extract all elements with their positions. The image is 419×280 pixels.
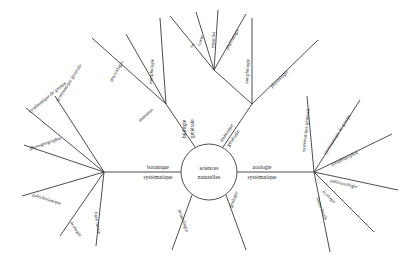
zoology-hub-label-line1: zoologie xyxy=(252,164,272,170)
diagram-canvas: sciences naturelles botanique systématiq… xyxy=(0,0,419,280)
fan-label-physiologie: physiologie xyxy=(225,28,241,51)
biology-general-label-line1: biologie xyxy=(181,119,187,138)
botany-leaf-label-3: phytogéographie xyxy=(29,135,62,151)
fan-label-os: os xyxy=(189,42,196,49)
anatomy-general-group xyxy=(252,18,318,104)
fan-label-coeur: coeur xyxy=(196,34,204,46)
botany-leaf-label-6: flore locale xyxy=(93,211,102,234)
earth-label-mineralogie: minéralogie xyxy=(177,209,190,233)
edge-botany-leaf-6 xyxy=(96,172,104,246)
zoology-hub-label-line2: systématique xyxy=(248,174,278,180)
biology-sub-label-morphologie: morphologie xyxy=(148,58,155,84)
anatomy-sub-label-morphologie: morphologie xyxy=(244,59,250,85)
botany-branch-group xyxy=(22,96,104,246)
edge-botany-leaf-1 xyxy=(26,108,104,172)
center-label-line1: sciences xyxy=(199,165,218,171)
edge-botany-leaf-3 xyxy=(24,145,104,172)
zoology-leaf-label-4: paléozoologie xyxy=(330,178,358,189)
edge-zoology-leaf-1 xyxy=(307,96,314,172)
botany-leaf-label-2: systématique générale xyxy=(55,63,83,103)
zoology-leaf-label-6: faune locale xyxy=(315,197,329,221)
anatomy-sub-label-physiologie: physiologie xyxy=(269,69,289,89)
biology-sub-label-anatomie: anatomie xyxy=(137,107,154,123)
botany-hub-label-line2: systématique xyxy=(144,174,174,180)
zoology-leaf-label-5: écologie xyxy=(321,189,337,204)
edge-botany-leaf-2 xyxy=(55,96,104,172)
center-hub-circle xyxy=(181,144,237,200)
botany-hub-label-line1: botanique xyxy=(147,164,169,170)
edge-biology-physiologie xyxy=(126,34,166,104)
biology-general-group xyxy=(92,18,166,104)
biology-general-label-line2: générale xyxy=(189,119,195,138)
earth-label-geologie: géologie xyxy=(228,191,239,209)
zoology-leaf-label-3: zoogéographie xyxy=(330,150,358,167)
anatomy-top-fan-group xyxy=(170,10,252,104)
zoology-leaf-label-1: systématique générale xyxy=(301,108,311,152)
edge-biology-morphologie xyxy=(160,18,166,104)
center-label-line2: naturelles xyxy=(198,174,220,180)
biology-sub-label-physiologie: physiologie xyxy=(109,60,125,83)
zoology-branch-group xyxy=(307,96,398,252)
botany-leaf-label-4: paléobotanique xyxy=(32,192,62,206)
edge-biology-anatomie xyxy=(92,38,166,104)
botany-leaf-label-5: écologie xyxy=(69,221,83,238)
zoology-leaf-label-2: systématique de groupe xyxy=(323,113,352,155)
